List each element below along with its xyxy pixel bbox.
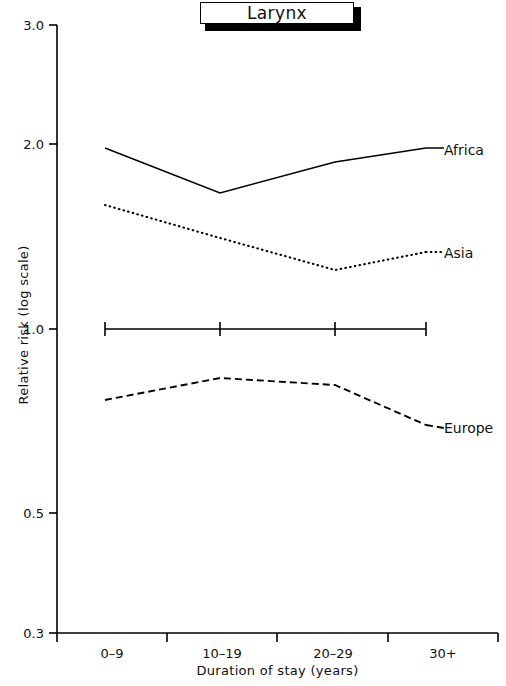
europe-label-leader [426,425,444,428]
y-tick-marks [49,25,57,633]
x-tick-label-0-9: 0–9 [77,647,147,660]
europe-polyline [105,378,426,425]
asia-polyline [105,205,426,270]
series-line-africa [105,148,444,193]
chart-figure: Larynx [0,0,506,686]
plot-canvas [0,0,506,686]
y-tick-label-3-0: 3.0 [0,19,44,32]
x-tick-label-10-19: 10–19 [187,647,257,660]
africa-polyline [105,148,426,193]
series-label-asia: Asia [444,246,473,260]
y-tick-label-2-0: 2.0 [0,138,44,151]
y-axis-title: Relative risk (log scale) [17,215,31,435]
y-tick-label-0-5: 0.5 [0,507,44,520]
x-axis-title: Duration of stay (years) [57,664,498,678]
series-line-asia [105,205,444,270]
series-line-europe [105,378,444,428]
x-tick-label-30-plus: 30+ [408,647,478,660]
reference-line-rr-1 [105,322,426,336]
x-tick-marks [57,633,498,642]
series-label-europe: Europe [444,421,493,435]
x-tick-label-20-29: 20–29 [298,647,368,660]
y-tick-label-0-3: 0.3 [0,627,44,640]
series-label-africa: Africa [444,143,484,157]
